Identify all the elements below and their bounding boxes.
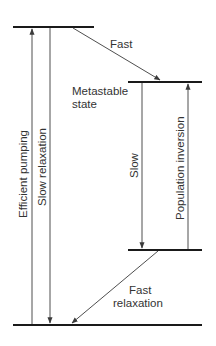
fast-relaxation-label-line2: relaxation	[113, 297, 163, 309]
fast-decay-arrow	[73, 28, 160, 80]
efficient-pumping-label: Efficient pumping	[17, 130, 29, 218]
slow-label: Slow	[128, 152, 140, 178]
metastable-label-line2: state	[72, 98, 97, 110]
slow-relaxation-label: Slow relaxation	[36, 128, 48, 206]
population-inversion-label: Population inversion	[174, 116, 186, 220]
energy-level-diagram: Efficient pumping Slow relaxation Fast M…	[0, 0, 216, 346]
fast-label: Fast	[110, 38, 133, 50]
fast-relaxation-label-line1: Fast	[129, 284, 152, 296]
metastable-label-line1: Metastable	[72, 85, 128, 97]
